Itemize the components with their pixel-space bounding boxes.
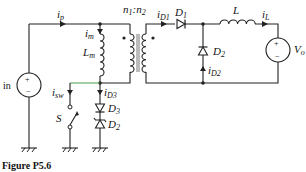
label-il: iL — [262, 8, 270, 22]
ground-icon — [92, 148, 108, 152]
lm-inductor-icon — [100, 34, 104, 76]
figure-caption: Figure P5.6 — [2, 160, 51, 171]
vo-minus: − — [275, 52, 280, 61]
label-zener-d2: D2 — [107, 118, 120, 132]
label-source-in: in — [3, 80, 11, 91]
im-arrow-icon — [97, 29, 103, 34]
label-s: S — [56, 112, 62, 124]
label-lm: Lm — [82, 46, 95, 60]
label-vo: Vo — [294, 43, 305, 57]
wire-sec-bottom — [146, 72, 203, 83]
ground-icon — [21, 148, 37, 152]
label-id3: iD3 — [104, 86, 117, 100]
d1-diode-icon — [177, 20, 185, 29]
label-d3: D3 — [107, 102, 120, 116]
label-isw: isw — [52, 86, 64, 100]
label-turns-ratio: n1:n2 — [123, 3, 146, 17]
label-id2: iD2 — [208, 64, 221, 78]
label-id1: iD1 — [157, 8, 170, 22]
vin-minus: − — [26, 87, 31, 96]
label-d1: D1 — [174, 6, 187, 20]
d3-diode-icon — [96, 104, 105, 112]
wire-l-out — [255, 24, 278, 38]
id2-arrow-icon — [200, 66, 206, 71]
label-im: im — [85, 27, 94, 41]
zener-diode-icon — [96, 120, 105, 128]
isw-arrow-icon — [67, 90, 73, 95]
label-ip: ip — [57, 8, 64, 22]
polarity-dot-primary — [122, 36, 125, 39]
wire-sec-top — [146, 24, 175, 34]
transformer-secondary-icon — [142, 34, 146, 72]
switch-contact-bottom — [68, 125, 72, 129]
id3-arrow-icon — [97, 90, 103, 95]
label-l: L — [232, 4, 239, 16]
l-inductor-icon — [220, 20, 255, 24]
vin-plus: + — [25, 75, 30, 84]
transformer-primary-icon — [130, 34, 134, 72]
switch-contact-top — [68, 105, 72, 109]
wire-bottom-primary — [100, 72, 130, 83]
circuit-schematic: ip im Lm n1:n2 iD1 D1 L iL D2 iD2 Vo + −… — [0, 0, 306, 172]
label-d2: D2 — [212, 45, 225, 59]
vo-plus: + — [274, 39, 279, 48]
d2-diode-icon — [199, 47, 208, 55]
ground-icon — [62, 148, 78, 152]
polarity-dot-secondary — [151, 36, 154, 39]
